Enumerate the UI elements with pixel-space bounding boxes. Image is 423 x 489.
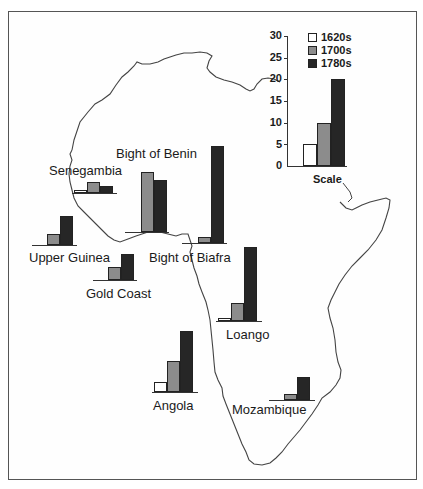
y-tick-15: 15	[262, 94, 282, 106]
bar-1700s	[198, 237, 211, 243]
bar-1700s	[108, 267, 121, 280]
scale-label: Scale	[313, 173, 342, 185]
region-label-mozambique: Mozambique	[232, 402, 306, 417]
baseline	[182, 243, 227, 244]
legend-item-1620s: 1620s	[308, 31, 352, 43]
legend-label: 1700s	[321, 44, 352, 56]
scale-bar-1620s	[303, 144, 317, 166]
y-axis-tick-mark	[284, 101, 287, 102]
bar-1700s	[141, 172, 154, 232]
region-label-senegambia: Senegambia	[49, 163, 122, 178]
baseline	[152, 392, 198, 393]
baseline	[32, 245, 77, 246]
y-axis-tick-mark	[284, 123, 287, 124]
bar-1700s	[284, 394, 297, 400]
region-label-angola: Angola	[153, 398, 193, 413]
legend-swatch-1780s	[308, 59, 317, 68]
scale-bar-1780s	[331, 79, 345, 166]
legend-item-1780s: 1780s	[308, 57, 352, 69]
scale-pointer-line	[343, 183, 352, 202]
y-tick-10: 10	[262, 116, 282, 128]
legend-label: 1620s	[321, 31, 352, 43]
bar-1780s	[211, 146, 224, 243]
y-tick-0: 0	[262, 159, 282, 171]
legend-item-1700s: 1700s	[308, 44, 352, 56]
region-label-bight-of-biafra: Bight of Biafra	[149, 250, 231, 265]
baseline	[269, 400, 315, 401]
bar-1620s	[154, 382, 167, 392]
region-label-upper-guinea: Upper Guinea	[29, 250, 110, 265]
legend-swatch-1620s	[308, 33, 317, 42]
scale-bar-1700s	[317, 123, 331, 166]
bar-1780s	[121, 254, 134, 280]
bar-1620s	[218, 318, 231, 321]
y-axis-line	[287, 36, 288, 166]
bar-1620s	[74, 190, 87, 193]
y-axis-tick-mark	[284, 58, 287, 59]
y-axis-tick-mark	[284, 79, 287, 80]
region-label-bight-of-benin: Bight of Benin	[116, 146, 197, 161]
y-axis-tick-mark	[284, 36, 287, 37]
bar-1780s	[60, 216, 73, 245]
y-axis-tick-mark	[284, 144, 287, 145]
y-tick-30: 30	[262, 29, 282, 41]
x-axis-line	[287, 166, 347, 167]
bar-1780s	[297, 377, 310, 400]
baseline	[216, 321, 262, 322]
bar-1780s	[244, 247, 257, 321]
bar-1780s	[100, 186, 113, 193]
region-label-gold-coast: Gold Coast	[86, 286, 151, 301]
bar-1780s	[154, 180, 167, 232]
bar-1700s	[47, 234, 60, 245]
bar-1700s	[231, 303, 244, 321]
bar-1700s	[87, 182, 100, 193]
bar-1700s	[167, 361, 180, 392]
baseline	[72, 193, 117, 194]
y-tick-20: 20	[262, 72, 282, 84]
y-tick-5: 5	[262, 138, 282, 150]
y-tick-25: 25	[262, 51, 282, 63]
bar-1780s	[180, 331, 193, 392]
region-label-loango: Loango	[226, 327, 269, 342]
legend-swatch-1700s	[308, 46, 317, 55]
legend-label: 1780s	[321, 57, 352, 69]
baseline	[125, 232, 169, 233]
baseline	[93, 280, 137, 281]
